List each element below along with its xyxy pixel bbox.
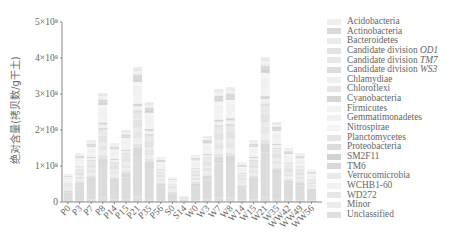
bar-segment: [133, 68, 142, 71]
bar-segment: [122, 140, 131, 146]
bar-segment: [226, 163, 235, 197]
bar-segment: [261, 61, 270, 64]
bar-segment: [296, 156, 305, 157]
bar-segment: [133, 74, 142, 75]
bar-segment: [98, 125, 107, 128]
bar-segment: [75, 157, 84, 158]
bar-segment: [64, 182, 73, 183]
bar-segment: [133, 106, 142, 110]
y-tick-label: 1×10⁸: [35, 161, 58, 171]
bar-segment: [284, 174, 293, 177]
bar-segment: [226, 153, 235, 156]
bar-segment: [307, 173, 316, 174]
bar-segment: [133, 156, 142, 197]
bar-segment: [203, 151, 212, 154]
bar-segment: [98, 165, 107, 198]
bar-W3: [203, 136, 212, 202]
bar-segment: [168, 181, 177, 183]
bar-segment: [203, 176, 212, 180]
bar-segment: [64, 187, 73, 188]
bar-segment: [214, 95, 223, 96]
legend-swatch: [327, 28, 341, 34]
bar-segment: [98, 158, 107, 165]
bar-segment: [296, 164, 305, 166]
bar-segment: [284, 156, 293, 160]
bar-segment: [284, 180, 293, 183]
bar-segment: [87, 141, 96, 142]
bar-segment: [110, 178, 119, 182]
bar-segment: [122, 168, 131, 171]
bar-segment: [87, 154, 96, 157]
bar-segment: [203, 145, 212, 150]
bar-segment: [156, 167, 165, 169]
bar-segment: [261, 73, 270, 77]
bar-segment: [249, 154, 258, 157]
bar-segment: [145, 159, 154, 162]
bar-segment: [75, 177, 84, 179]
bar-segment: [156, 187, 165, 201]
bar-segment: [261, 66, 270, 70]
bar-segment: [133, 148, 142, 156]
bar-segment: [75, 156, 84, 157]
y-tick-label: 4×10⁸: [35, 53, 58, 63]
bar-segment: [226, 148, 235, 153]
bar-segment: [168, 186, 177, 187]
bar-segment: [156, 157, 165, 158]
bar-segment: [296, 169, 305, 170]
bar-segment: [133, 71, 142, 74]
bar-segment: [261, 134, 270, 140]
bar-segment: [191, 183, 200, 186]
y-tick-label: 2×10⁸: [35, 125, 58, 135]
bar-segment: [75, 181, 84, 182]
bar-segment: [133, 132, 142, 139]
bar-segment: [98, 93, 107, 94]
bar-segment: [272, 122, 281, 123]
bar-segment: [110, 160, 119, 162]
bar-segment: [98, 122, 107, 124]
bar-segment: [272, 133, 281, 139]
bar-segment: [203, 140, 212, 142]
bar-segment: [87, 177, 96, 181]
bar-segment: [226, 197, 235, 202]
bar-segment: [214, 105, 223, 114]
bar-segment: [145, 131, 154, 134]
bar-segment: [203, 159, 212, 162]
bar-segment: [203, 162, 212, 166]
bar-segment: [296, 181, 305, 182]
bar-segment: [203, 142, 212, 143]
bar-segment: [98, 151, 107, 155]
bar-segment: [98, 128, 107, 130]
bar-segment: [203, 168, 212, 171]
bar-segment: [145, 198, 154, 202]
bar-segment: [307, 189, 316, 191]
bar-segment: [64, 178, 73, 180]
bar-segment: [191, 173, 200, 176]
bar-segment: [261, 57, 270, 58]
bar-segment: [64, 182, 73, 183]
bar-segment: [75, 185, 84, 200]
bar-segment: [156, 170, 165, 171]
bar-segment: [122, 171, 131, 173]
bar-segment: [122, 162, 131, 164]
bar-segment: [168, 180, 177, 181]
bar-segment: [145, 103, 154, 105]
bar-segment: [307, 174, 316, 177]
bar-segment: [98, 96, 107, 98]
bar-segment: [272, 140, 281, 144]
bar-segment: [238, 164, 247, 165]
bar-segment: [296, 175, 305, 176]
bar-segment: [191, 168, 200, 169]
bar-segment: [284, 163, 293, 164]
bar-segment: [133, 79, 142, 82]
bar-segment: [64, 176, 73, 177]
bar-segment: [296, 155, 305, 156]
bar-segment: [203, 143, 212, 145]
bar-segment: [133, 197, 142, 202]
legend-swatch: [327, 86, 341, 92]
bar-segment: [249, 170, 258, 173]
bar-segment: [156, 183, 165, 184]
legend-swatch: [327, 125, 341, 131]
bar-segment: [145, 111, 154, 113]
bar-segment: [261, 96, 270, 99]
bar-segment: [214, 114, 223, 120]
